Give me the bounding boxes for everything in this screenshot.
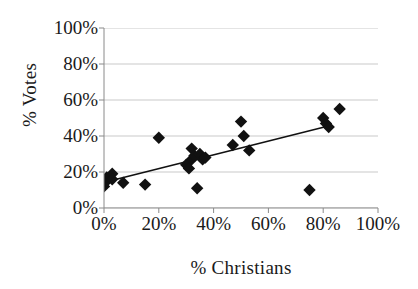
scatter-chart: % Votes 0%20%40%60%80%100% 0%20%40%60%80… — [0, 0, 418, 289]
x-tick-label: 40% — [196, 214, 231, 233]
x-tick-label: 20% — [141, 214, 176, 233]
x-tick-label: 60% — [251, 214, 286, 233]
axis-lines — [0, 0, 418, 289]
x-axis-tick-labels: 0%20%40%60%80%100% — [0, 214, 418, 238]
x-axis-title: % Christians — [104, 257, 378, 279]
x-tick-label: 100% — [356, 214, 400, 233]
x-tick-label: 0% — [91, 214, 116, 233]
x-tick-label: 80% — [306, 214, 341, 233]
